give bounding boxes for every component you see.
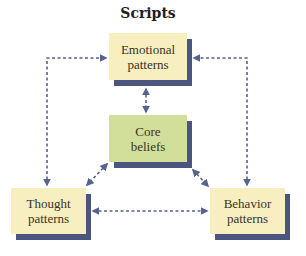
connector-behavior-emotional: [194, 58, 247, 185]
node-label-line2: patterns: [26, 211, 70, 226]
connector-core-thought: [87, 164, 107, 185]
connector-thought-emotional: [47, 58, 106, 185]
node-core-beliefs: Core beliefs: [109, 115, 187, 162]
node-label-line2: patterns: [224, 211, 272, 226]
node-emotional-patterns: Emotional patterns: [109, 33, 187, 80]
node-thought-patterns: Thought patterns: [11, 188, 86, 234]
node-label-line2: patterns: [121, 57, 175, 72]
connector-core-behavior: [193, 170, 208, 186]
node-label-line1: Thought: [26, 196, 70, 211]
node-label-line2: beliefs: [131, 139, 166, 154]
node-label-line1: Emotional: [121, 42, 175, 57]
node-behavior-patterns: Behavior patterns: [210, 188, 285, 234]
node-label-line1: Behavior: [224, 196, 272, 211]
node-label-line1: Core: [131, 124, 166, 139]
